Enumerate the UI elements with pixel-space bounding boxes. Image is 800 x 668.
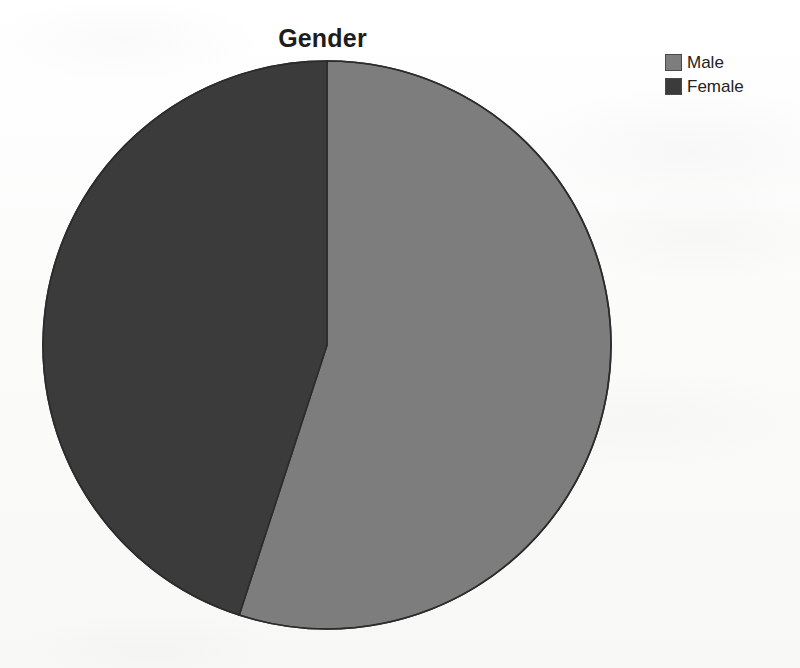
chart-title: Gender: [0, 24, 800, 53]
pie-chart-plot-area: [39, 57, 615, 633]
legend-item-female[interactable]: Female: [665, 77, 744, 96]
legend-label-male: Male: [687, 53, 724, 72]
pie-svg: [39, 57, 615, 633]
pie-chart-figure: Gender Male Female: [0, 0, 800, 668]
legend-swatch-female-icon: [665, 78, 682, 95]
legend-label-female: Female: [687, 77, 744, 96]
legend-swatch-male-icon: [665, 54, 682, 71]
chart-legend: Male Female: [665, 53, 744, 96]
legend-item-male[interactable]: Male: [665, 53, 744, 72]
